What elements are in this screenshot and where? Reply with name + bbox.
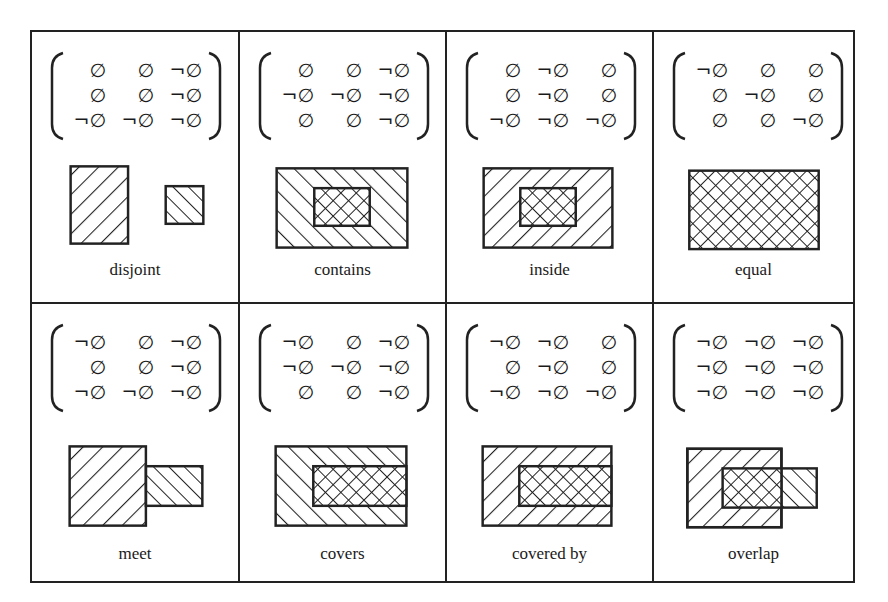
matrix-entry: ∅ [112, 355, 160, 380]
matrix-entry: ∅ [575, 58, 623, 83]
matrix-entry: ¬∅ [686, 330, 734, 355]
matrix-entry: ∅ [575, 83, 623, 108]
matrix-entry: ¬∅ [782, 330, 830, 355]
matrix-entry: ¬∅ [527, 355, 575, 380]
matrix-entry: ¬∅ [734, 330, 782, 355]
relation-label: equal [654, 260, 853, 280]
matrix-entry: ∅ [112, 330, 160, 355]
matrix-entry: ¬∅ [686, 58, 734, 83]
matrix-entry: ¬∅ [160, 108, 208, 133]
matrix-entry: ¬∅ [734, 355, 782, 380]
matrix-entry: ¬∅ [527, 330, 575, 355]
matrix-entry: ¬∅ [320, 355, 368, 380]
matrix-entry: ¬∅ [368, 355, 416, 380]
matrix-entry: ¬∅ [575, 108, 623, 133]
right-paren-icon [206, 50, 222, 142]
matrix-entry: ∅ [575, 330, 623, 355]
matrix-entry: ∅ [782, 58, 830, 83]
matrix-entry: ∅ [320, 330, 368, 355]
matrix-entry: ¬∅ [479, 108, 527, 133]
matrix-entry: ¬∅ [527, 108, 575, 133]
matrix-entry: ∅ [575, 355, 623, 380]
intersection-matrix: ¬∅ ∅ ¬∅ ¬∅ ¬∅ ¬∅ ∅ ∅ ¬∅ [258, 322, 430, 414]
intersection-matrix: ∅ ∅ ¬∅ ∅ ∅ ¬∅ ¬∅ ¬∅ ¬∅ [50, 50, 222, 142]
matrix-entry: ∅ [320, 380, 368, 405]
matrix-entry: ¬∅ [272, 330, 320, 355]
matrix-entry: ¬∅ [368, 58, 416, 83]
matrix-entry: ¬∅ [320, 83, 368, 108]
overlap-diagram [654, 438, 853, 538]
matrix-entry: ∅ [686, 108, 734, 133]
matrix-entry: ¬∅ [368, 330, 416, 355]
relation-label: overlap [654, 544, 853, 564]
matrix-entry: ∅ [686, 83, 734, 108]
relation-cell-disjoint: ∅ ∅ ¬∅ ∅ ∅ ¬∅ ¬∅ ¬∅ ¬∅ disjoint [32, 32, 240, 304]
matrix-entry: ∅ [479, 355, 527, 380]
matrix-entry: ¬∅ [686, 380, 734, 405]
covers-diagram [240, 438, 445, 538]
matrix-entry: ¬∅ [782, 355, 830, 380]
matrix-entry: ¬∅ [527, 58, 575, 83]
matrix-entry: ¬∅ [160, 355, 208, 380]
relation-cell-covered-by: ¬∅ ¬∅ ∅ ∅ ¬∅ ∅ ¬∅ ¬∅ ¬∅ covered by [447, 304, 654, 581]
matrix-entry: ¬∅ [64, 330, 112, 355]
matrix-entry: ∅ [734, 58, 782, 83]
matrix-entry: ∅ [272, 108, 320, 133]
relation-cell-overlap: ¬∅ ¬∅ ¬∅ ¬∅ ¬∅ ¬∅ ¬∅ ¬∅ ¬∅ overlap [654, 304, 853, 581]
meet-diagram [32, 438, 238, 538]
matrix-entry: ∅ [64, 83, 112, 108]
matrix-entry: ¬∅ [64, 380, 112, 405]
intersection-matrix: ∅ ∅ ¬∅ ¬∅ ¬∅ ¬∅ ∅ ∅ ¬∅ [258, 50, 430, 142]
right-paren-icon [828, 322, 844, 414]
matrix-entry: ¬∅ [160, 330, 208, 355]
matrix-entry: ∅ [320, 108, 368, 133]
inside-diagram [447, 154, 652, 254]
matrix-entry: ∅ [64, 58, 112, 83]
matrix-entry: ¬∅ [112, 108, 160, 133]
covered-by-diagram [447, 438, 652, 538]
matrix-entry: ∅ [782, 83, 830, 108]
matrix-entry: ¬∅ [527, 83, 575, 108]
matrix-entry: ¬∅ [686, 355, 734, 380]
right-paren-icon [621, 50, 637, 142]
right-paren-icon [414, 50, 430, 142]
relation-cell-contains: ∅ ∅ ¬∅ ¬∅ ¬∅ ¬∅ ∅ ∅ ¬∅ contains [240, 32, 447, 304]
matrix-entry: ¬∅ [734, 380, 782, 405]
matrix-entry: ∅ [112, 58, 160, 83]
matrix-entry: ∅ [479, 83, 527, 108]
relation-label: disjoint [32, 260, 238, 280]
right-paren-icon [414, 322, 430, 414]
matrix-entry: ¬∅ [782, 380, 830, 405]
matrix-entry: ¬∅ [112, 380, 160, 405]
intersection-matrix: ¬∅ ¬∅ ∅ ∅ ¬∅ ∅ ¬∅ ¬∅ ¬∅ [465, 322, 637, 414]
relation-label: covered by [447, 544, 652, 564]
matrix-entry: ¬∅ [160, 58, 208, 83]
contains-diagram [240, 154, 445, 254]
right-paren-icon [828, 50, 844, 142]
matrix-entry: ¬∅ [160, 380, 208, 405]
right-paren-icon [621, 322, 637, 414]
relation-label: covers [240, 544, 445, 564]
matrix-entry: ¬∅ [734, 83, 782, 108]
intersection-matrix: ¬∅ ∅ ¬∅ ∅ ∅ ¬∅ ¬∅ ¬∅ ¬∅ [50, 322, 222, 414]
intersection-matrix: ¬∅ ¬∅ ¬∅ ¬∅ ¬∅ ¬∅ ¬∅ ¬∅ ¬∅ [672, 322, 844, 414]
relation-cell-covers: ¬∅ ∅ ¬∅ ¬∅ ¬∅ ¬∅ ∅ ∅ ¬∅ covers [240, 304, 447, 581]
matrix-entry: ¬∅ [64, 108, 112, 133]
matrix-entry: ¬∅ [575, 380, 623, 405]
matrix-entry: ¬∅ [479, 380, 527, 405]
matrix-entry: ∅ [320, 58, 368, 83]
equal-diagram [654, 154, 853, 254]
matrix-entry: ∅ [112, 83, 160, 108]
relations-table: ∅ ∅ ¬∅ ∅ ∅ ¬∅ ¬∅ ¬∅ ¬∅ disjoint ∅ ∅ ¬∅ [30, 30, 855, 583]
matrix-entry: ∅ [272, 380, 320, 405]
right-paren-icon [206, 322, 222, 414]
relation-label: meet [32, 544, 238, 564]
intersection-matrix: ∅ ¬∅ ∅ ∅ ¬∅ ∅ ¬∅ ¬∅ ¬∅ [465, 50, 637, 142]
matrix-entry: ∅ [272, 58, 320, 83]
matrix-entry: ¬∅ [368, 83, 416, 108]
relation-cell-meet: ¬∅ ∅ ¬∅ ∅ ∅ ¬∅ ¬∅ ¬∅ ¬∅ meet [32, 304, 240, 581]
relation-label: contains [240, 260, 445, 280]
relation-label: inside [447, 260, 652, 280]
matrix-entry: ¬∅ [368, 380, 416, 405]
matrix-entry: ∅ [64, 355, 112, 380]
